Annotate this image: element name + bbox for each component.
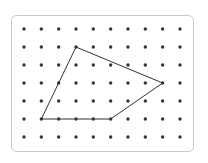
grid-dot — [178, 27, 181, 30]
grid-dot — [144, 117, 147, 120]
grid-dot — [57, 117, 60, 120]
geoboard-diagram — [0, 0, 208, 163]
grid-dot — [40, 99, 43, 102]
grid-dot — [92, 45, 95, 48]
grid-dot — [144, 99, 147, 102]
grid-dot — [92, 63, 95, 66]
grid-dot — [92, 27, 95, 30]
grid-dot — [40, 63, 43, 66]
grid-dot — [161, 99, 164, 102]
grid-dot — [57, 135, 60, 138]
grid-dot — [74, 45, 77, 48]
grid-dot — [22, 117, 25, 120]
geoboard-canvas — [0, 0, 208, 163]
grid-dot — [109, 27, 112, 30]
grid-dot — [74, 99, 77, 102]
grid-dot — [22, 45, 25, 48]
grid-dot — [92, 117, 95, 120]
grid-dot — [109, 99, 112, 102]
grid-dot — [178, 135, 181, 138]
grid-dot — [126, 117, 129, 120]
grid-dot — [161, 63, 164, 66]
grid-dot — [74, 135, 77, 138]
grid-dot — [74, 81, 77, 84]
grid-dot — [92, 99, 95, 102]
grid-dot — [161, 27, 164, 30]
grid-dot — [22, 135, 25, 138]
grid-dot — [144, 135, 147, 138]
grid-dot — [126, 81, 129, 84]
board-frame — [12, 16, 194, 152]
grid-dot — [74, 63, 77, 66]
grid-dot — [92, 81, 95, 84]
grid-dot — [74, 117, 77, 120]
grid-dot — [22, 81, 25, 84]
grid-dot — [40, 135, 43, 138]
grid-dot — [109, 81, 112, 84]
grid-dot — [126, 45, 129, 48]
grid-dot — [57, 27, 60, 30]
grid-dot — [178, 117, 181, 120]
grid-dot — [74, 27, 77, 30]
grid-dot — [161, 81, 164, 84]
grid-dot — [22, 99, 25, 102]
grid-dot — [126, 99, 129, 102]
grid-dot — [161, 117, 164, 120]
grid-dot — [57, 99, 60, 102]
grid-dot — [126, 27, 129, 30]
grid-dot — [144, 45, 147, 48]
grid-dot — [144, 81, 147, 84]
grid-dot — [178, 99, 181, 102]
grid-dot — [109, 63, 112, 66]
grid-dot — [92, 135, 95, 138]
grid-dot — [40, 81, 43, 84]
grid-dot — [161, 135, 164, 138]
grid-dot — [22, 63, 25, 66]
grid-dot — [109, 135, 112, 138]
grid-dot — [22, 27, 25, 30]
grid-dot — [109, 45, 112, 48]
grid-dot — [40, 117, 43, 120]
grid-dot — [109, 117, 112, 120]
grid-dot — [57, 63, 60, 66]
grid-dot — [126, 135, 129, 138]
grid-dot — [144, 27, 147, 30]
grid-dot — [40, 45, 43, 48]
grid-dot — [144, 63, 147, 66]
grid-dot — [57, 45, 60, 48]
grid-dot — [178, 81, 181, 84]
grid-dot — [57, 81, 60, 84]
grid-dot — [126, 63, 129, 66]
grid-dot — [40, 27, 43, 30]
grid-dot — [178, 63, 181, 66]
grid-dot — [161, 45, 164, 48]
grid-dot — [178, 45, 181, 48]
